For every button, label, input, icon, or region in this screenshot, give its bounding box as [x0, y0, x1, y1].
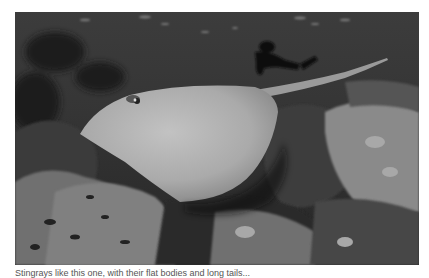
- stingray-photo: [15, 12, 419, 265]
- photo-scene: [15, 12, 419, 265]
- photo-caption: Stingrays like this one, with their flat…: [15, 268, 419, 278]
